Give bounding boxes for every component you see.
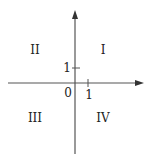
x-axis-arrow-icon	[135, 80, 144, 86]
quadrant-iii-label: III	[28, 111, 42, 125]
coordinate-plane: 1 1 0 II I III IV	[0, 0, 151, 165]
x-tick-label: 1	[85, 88, 93, 102]
y-axis-arrow-icon	[72, 10, 78, 19]
origin-label: 0	[64, 86, 72, 100]
quadrant-iv-label: IV	[96, 111, 110, 125]
quadrant-i-label: I	[101, 43, 106, 57]
quadrant-ii-label: II	[30, 43, 40, 57]
y-tick-label: 1	[63, 61, 71, 75]
